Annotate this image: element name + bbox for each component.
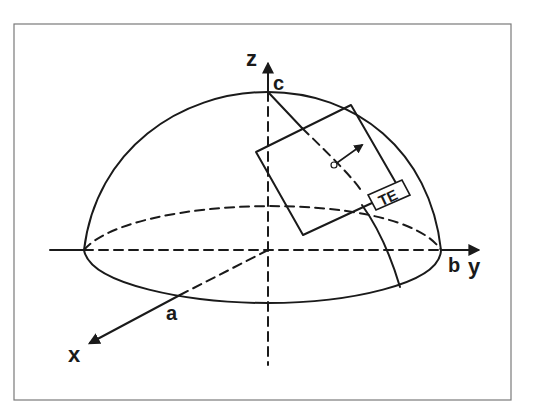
point-c-label: c — [273, 72, 284, 94]
point-a-label: a — [166, 302, 178, 324]
z-axis-label: z — [246, 46, 257, 71]
x-axis-hidden — [180, 250, 268, 295]
figure-frame — [14, 24, 511, 400]
x-axis-label: x — [68, 342, 81, 367]
point-b-label: b — [448, 254, 460, 276]
dome-diagram: TE z c b y a x — [0, 0, 540, 412]
base-ellipse-back — [84, 206, 441, 250]
meridian-visible-top — [268, 92, 302, 128]
tangent-plane — [256, 105, 400, 235]
y-axis-label: y — [468, 254, 481, 279]
tangent-point-marker — [331, 162, 337, 168]
base-ellipse-front — [84, 250, 441, 303]
